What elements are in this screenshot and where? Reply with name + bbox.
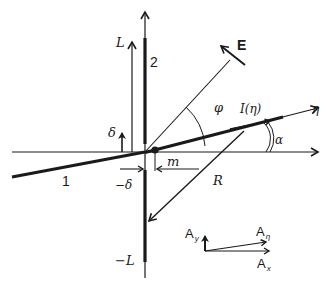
antenna-1 (12, 152, 145, 177)
antenna-2-label: 2 (150, 55, 158, 69)
A-eta-vector (205, 242, 266, 251)
A-eta-letter: A (256, 224, 265, 239)
R-label: R (213, 174, 223, 187)
A-y-letter: A (185, 226, 194, 241)
alpha-label: α (275, 134, 283, 146)
R-vector (149, 131, 244, 221)
A-x-subscript: x (267, 264, 271, 273)
eta-label: η (312, 103, 319, 115)
minus-L-label: −L (115, 254, 135, 267)
m-label: m (167, 155, 179, 168)
L-label: L (116, 36, 125, 49)
E-label: E (237, 38, 246, 52)
delta-label: δ (108, 126, 116, 139)
phi-label: φ (214, 101, 223, 114)
A-y-subscript: y (195, 234, 199, 243)
minus-delta-label: −δ (115, 179, 132, 191)
alpha-arc-1 (264, 123, 271, 152)
antenna-geometry-diagram: E L 2 δ φ I(η) η α 1 −δ m R −L Ay Aη Ax (0, 0, 328, 286)
A-x-letter: A (257, 256, 266, 271)
A-eta-subscript: η (266, 232, 270, 241)
current-label: I(η) (240, 103, 261, 115)
antenna-1-label: 1 (62, 174, 70, 188)
A-y-label: Ay (185, 227, 199, 243)
A-x-label: Ax (257, 257, 271, 273)
current-arrow (230, 121, 270, 129)
A-eta-label: Aη (256, 225, 270, 241)
